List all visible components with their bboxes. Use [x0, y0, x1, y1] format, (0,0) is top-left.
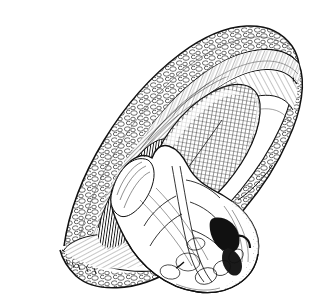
illustration-canvas	[0, 0, 320, 308]
anatomical-illustration-figure	[0, 0, 320, 308]
